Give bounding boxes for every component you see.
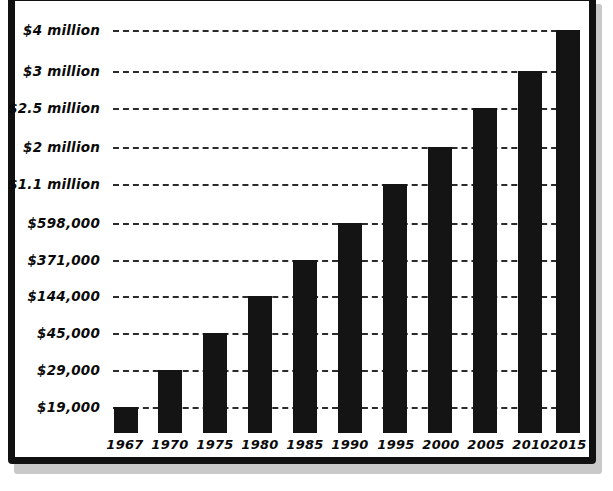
x-axis-tick-label: 1995 <box>377 437 414 452</box>
bar <box>518 71 542 433</box>
y-axis-labels: $4 million$3 million$2.5 million$2 milli… <box>0 0 100 433</box>
y-axis-tick-label: $4 million <box>23 22 100 38</box>
bar <box>203 333 227 433</box>
x-axis-tick-label: 1990 <box>331 437 368 452</box>
x-axis-tick-label: 2005 <box>467 437 504 452</box>
bar <box>158 370 182 433</box>
y-axis-tick-label: $598,000 <box>28 215 100 231</box>
x-axis-tick-label: 1967 <box>106 437 143 452</box>
bar <box>383 184 407 433</box>
y-axis-tick-label: $144,000 <box>28 288 100 304</box>
x-axis-tick-label: 1980 <box>241 437 278 452</box>
bar <box>338 223 362 433</box>
bar <box>428 147 452 433</box>
x-axis-tick-label: 1975 <box>196 437 233 452</box>
bar <box>248 296 272 433</box>
y-axis-tick-label: $2.5 million <box>8 100 100 116</box>
x-axis-tick-label: 2015 <box>549 437 586 452</box>
x-axis-tick-label: 1970 <box>151 437 188 452</box>
y-axis-tick-label: $45,000 <box>37 325 100 341</box>
y-axis-tick-label: $1.1 million <box>8 176 100 192</box>
bar <box>556 30 580 433</box>
x-axis-tick-label: 2010 <box>512 437 549 452</box>
bar <box>293 260 317 433</box>
y-axis-tick-label: $2 million <box>23 139 100 155</box>
y-axis-tick-label: $19,000 <box>37 399 100 415</box>
y-axis-tick-label: $3 million <box>23 63 100 79</box>
x-axis-labels: 1967197019751980198519901995200020052010… <box>113 437 577 463</box>
y-axis-tick-label: $29,000 <box>37 362 100 378</box>
y-axis-tick-label: $371,000 <box>28 252 100 268</box>
bar <box>114 407 138 433</box>
x-axis-tick-label: 1985 <box>286 437 323 452</box>
bar-series <box>113 0 577 433</box>
chart-page: $4 million$3 million$2.5 million$2 milli… <box>0 0 613 491</box>
x-axis-tick-label: 2000 <box>422 437 459 452</box>
bar <box>473 108 497 433</box>
